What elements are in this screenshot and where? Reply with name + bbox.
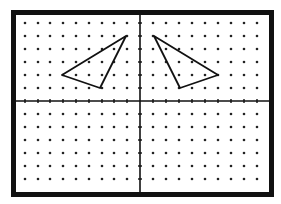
grid-dot: [165, 178, 168, 181]
grid-dot: [88, 178, 91, 181]
grid-dot: [217, 139, 220, 142]
grid-dot: [191, 61, 194, 64]
grid-dot: [217, 48, 220, 51]
grid-dot: [178, 113, 181, 116]
grid-dot: [62, 22, 65, 25]
grid-dot: [75, 139, 78, 142]
grid-dot: [75, 61, 78, 64]
grid-dot: [191, 74, 194, 77]
grid-dot: [217, 61, 220, 64]
grid-dot: [152, 74, 155, 77]
grid-dot: [217, 87, 220, 90]
grid-dot: [204, 74, 207, 77]
grid-dot: [126, 87, 129, 90]
grid-dot: [230, 152, 233, 155]
grid-dot: [101, 152, 104, 155]
grid-dot: [75, 152, 78, 155]
grid-dot: [243, 22, 246, 25]
grid-dot: [126, 113, 129, 116]
grid-dot: [24, 152, 27, 155]
grid-dot: [191, 165, 194, 168]
grid-dot: [230, 48, 233, 51]
grid-dot: [101, 178, 104, 181]
grid-dot: [126, 126, 129, 129]
grid-dot: [126, 178, 129, 181]
grid-dot: [49, 61, 52, 64]
grid-dot: [243, 152, 246, 155]
grid-dot: [191, 178, 194, 181]
grid-dot: [126, 61, 129, 64]
grid-dot: [230, 126, 233, 129]
grid-dot: [191, 126, 194, 129]
grid-dot: [230, 178, 233, 181]
grid-dot: [24, 178, 27, 181]
grid-dot: [62, 48, 65, 51]
grid-dot: [62, 113, 65, 116]
grid-dot: [75, 178, 78, 181]
grid-dot: [152, 178, 155, 181]
grid-dot: [256, 35, 259, 38]
grid-dot: [24, 35, 27, 38]
grid-dot: [204, 126, 207, 129]
grid-dot: [230, 87, 233, 90]
grid-dot: [37, 87, 40, 90]
grid-dot: [178, 74, 181, 77]
grid-dot: [62, 152, 65, 155]
grid-dot: [75, 22, 78, 25]
grid-dot: [191, 139, 194, 142]
grid-dot: [101, 139, 104, 142]
grid-dot: [75, 113, 78, 116]
grid-dot: [24, 113, 27, 116]
grid-dot: [75, 74, 78, 77]
grid-dot: [256, 113, 259, 116]
grid-dot: [230, 139, 233, 142]
grid-dot: [88, 113, 91, 116]
grid-dot: [204, 178, 207, 181]
grid-dot: [49, 178, 52, 181]
grid-dot: [75, 126, 78, 129]
grid-dot: [256, 22, 259, 25]
grid-dot: [178, 139, 181, 142]
grid-dot: [113, 74, 116, 77]
grid-dot: [88, 61, 91, 64]
grid-dot: [24, 139, 27, 142]
grid-dot: [49, 139, 52, 142]
grid-dot: [88, 165, 91, 168]
grid-dot: [113, 152, 116, 155]
grid-dot: [217, 35, 220, 38]
grid-dot: [178, 126, 181, 129]
grid-dot: [126, 74, 129, 77]
grid-dot: [256, 152, 259, 155]
grid-dot: [204, 152, 207, 155]
grid-dot: [178, 178, 181, 181]
grid-dot: [88, 152, 91, 155]
grid-dot: [37, 61, 40, 64]
grid-dot: [152, 113, 155, 116]
grid-dot: [191, 152, 194, 155]
grid-dot: [101, 74, 104, 77]
grid-dot: [152, 165, 155, 168]
outer-frame: [14, 13, 272, 195]
grid-dot: [165, 22, 168, 25]
grid-dot: [178, 22, 181, 25]
grid-dot: [243, 178, 246, 181]
grid-dot: [230, 35, 233, 38]
grid-dot: [88, 126, 91, 129]
grid-dot: [62, 35, 65, 38]
grid-dot: [75, 87, 78, 90]
grid-dot: [243, 35, 246, 38]
grid-dot: [243, 87, 246, 90]
grid-dot: [37, 152, 40, 155]
grid-dot: [37, 139, 40, 142]
grid-dot: [256, 126, 259, 129]
grid-dot: [178, 152, 181, 155]
grid-dot: [230, 74, 233, 77]
grid-dot: [37, 35, 40, 38]
coordinate-plane-diagram: [0, 0, 281, 204]
grid-dot: [37, 22, 40, 25]
grid-dot: [101, 61, 104, 64]
grid-dot: [230, 22, 233, 25]
grid-dot: [165, 87, 168, 90]
grid-dot: [75, 48, 78, 51]
grid-dot: [49, 165, 52, 168]
